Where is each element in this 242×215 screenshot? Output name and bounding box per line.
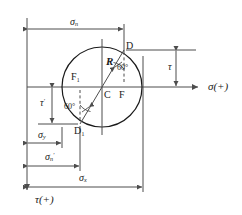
dim-label-tau: τ bbox=[168, 62, 172, 72]
tau-axis-label: τ(+) bbox=[35, 194, 54, 205]
dim-label-sigma-y: σy bbox=[38, 130, 46, 140]
point-label-f: F bbox=[119, 90, 125, 100]
angle-label-at-d1: 60° bbox=[64, 103, 75, 111]
figure-canvas bbox=[0, 0, 242, 215]
dim-label-tau-base: τ bbox=[168, 61, 172, 72]
dim-label-sigma-n-sub: n bbox=[75, 20, 78, 27]
point-label-d: D bbox=[126, 41, 133, 51]
dim-label-tau-prime-mark: ′ bbox=[44, 97, 45, 104]
dim-label-sigma-n-prime-mark: ′ bbox=[53, 151, 54, 158]
angle-label-at-d: 60° bbox=[117, 64, 128, 72]
point-label-c: C bbox=[104, 90, 111, 100]
dim-label-sigma-n: σn bbox=[70, 17, 78, 27]
dim-label-sigma-y-sub: y bbox=[43, 133, 46, 140]
radius-label-r: R bbox=[106, 56, 113, 67]
dim-label-sigma-x-sub: x bbox=[84, 176, 87, 183]
dim-label-sigma-n-prime: σn′ bbox=[45, 152, 54, 162]
dim-label-sigma-x: σx bbox=[79, 173, 87, 183]
mohr-circle-figure: σ(+) τ(+) C F F₁ D D₁ R 60° 60° σn τ τ′ … bbox=[0, 0, 242, 215]
dim-label-tau-prime: τ′ bbox=[40, 98, 45, 108]
point-label-f1: F₁ bbox=[71, 72, 80, 82]
point-label-d1: D₁ bbox=[74, 126, 85, 136]
sigma-axis-label: σ(+) bbox=[208, 81, 228, 92]
